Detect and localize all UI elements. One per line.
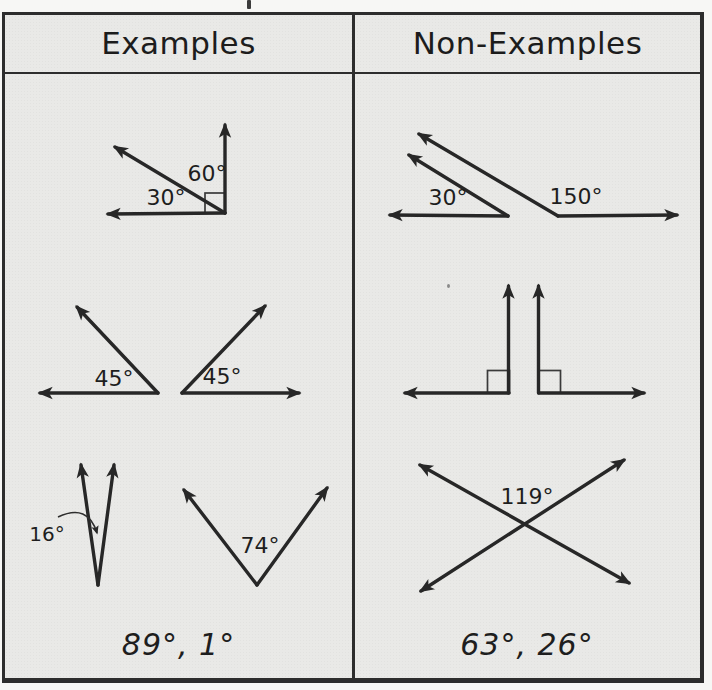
non-examples-column-header: Non-Examples (355, 15, 700, 72)
figure-angles-45-45: 45° 45° (25, 290, 315, 405)
angle-label-30: 30° (429, 185, 468, 210)
table-content: Examples Non-Examples (5, 15, 700, 678)
angle-label-45-right: 45° (203, 364, 242, 389)
crossing-line-descending (420, 465, 629, 583)
angle-label-119: 119° (501, 484, 554, 509)
worksheet-page: Examples Non-Examples (0, 0, 712, 690)
crossing-line-ascending (421, 460, 624, 591)
figure-angles-30-60: 30° 60° (90, 110, 260, 230)
non-examples-pair-values: 63°, 26° (354, 627, 700, 661)
angle-label-150: 150° (550, 184, 603, 209)
examples-column-header: Examples (5, 15, 352, 72)
angle-label-16: 16° (29, 522, 64, 546)
examples-table: Examples Non-Examples (2, 12, 704, 683)
angle-label-45-left: 45° (95, 366, 134, 391)
narrow-ray-right (98, 465, 114, 585)
examples-pair-values: 89°, 1° (5, 627, 352, 661)
ray-right (558, 215, 677, 216)
ray-left (390, 215, 508, 216)
ray-left (108, 213, 225, 214)
angle-label-60: 60° (188, 161, 227, 186)
right-angle-marker-left (488, 371, 510, 394)
angle-label-30: 30° (147, 185, 186, 210)
figure-crossing-lines-119: 119° (400, 445, 650, 605)
right-angle-marker-right (539, 371, 561, 394)
angle-label-74: 74° (241, 533, 280, 558)
narrow-ray-left (81, 465, 98, 585)
cropped-text-fragment (247, 0, 251, 9)
figure-angles-16-74: 16° 74° (20, 450, 340, 600)
figure-angles-30-150: 30° 150° (380, 120, 695, 230)
column-divider (352, 15, 355, 678)
figure-two-right-angles (395, 275, 655, 405)
